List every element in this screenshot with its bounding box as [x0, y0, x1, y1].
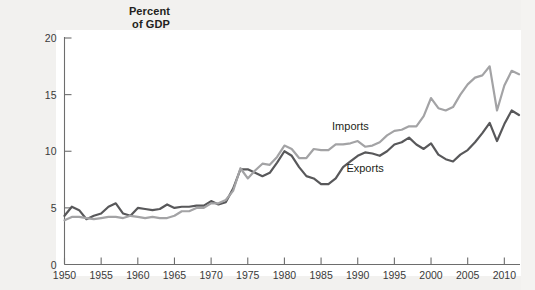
- x-tick-label: 2005: [456, 269, 480, 281]
- x-tick-label: 1985: [309, 269, 333, 281]
- y-tick-label: 5: [51, 202, 57, 214]
- x-axis: 1950195519601965197019751980198519901995…: [53, 258, 520, 281]
- chart-figure: Percent of GDP 05101520 1950195519601965…: [0, 0, 535, 290]
- series-annotations: ImportsExports: [332, 120, 384, 174]
- series-line-imports: [65, 66, 520, 220]
- x-tick-label: 2000: [419, 269, 443, 281]
- x-tick-label: 1990: [346, 269, 370, 281]
- x-tick-label: 1980: [273, 269, 297, 281]
- y-tick-marks: [65, 38, 72, 208]
- y-tick-label: 10: [45, 145, 57, 157]
- y-tick-labels: 05101520: [45, 32, 57, 271]
- x-tick-label: 1960: [126, 269, 150, 281]
- data-series-group: [65, 66, 520, 220]
- x-tick-label: 1950: [53, 269, 77, 281]
- series-label-imports: Imports: [332, 120, 369, 132]
- y-axis: 05101520: [45, 32, 72, 271]
- series-line-exports: [65, 110, 520, 219]
- x-tick-label: 2010: [493, 269, 517, 281]
- x-tick-label: 1995: [383, 269, 407, 281]
- x-tick-marks: [65, 258, 505, 265]
- x-tick-label: 1975: [236, 269, 260, 281]
- x-tick-label: 1955: [89, 269, 113, 281]
- x-tick-label: 1970: [199, 269, 223, 281]
- x-tick-label: 1965: [163, 269, 187, 281]
- x-tick-labels: 1950195519601965197019751980198519901995…: [53, 269, 516, 281]
- y-tick-label: 20: [45, 32, 57, 44]
- line-chart: 05101520 1950195519601965197019751980198…: [0, 0, 535, 290]
- y-tick-label: 15: [45, 89, 57, 101]
- series-label-exports: Exports: [346, 162, 384, 174]
